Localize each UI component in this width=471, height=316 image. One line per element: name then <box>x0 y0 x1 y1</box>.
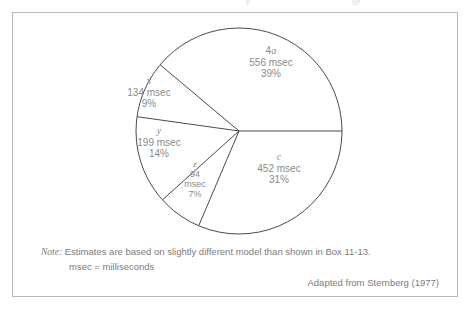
pie-slice-label-4a: 4a 556 msec 39% <box>233 45 309 80</box>
pie-slice-percent-x: 9% <box>111 98 187 110</box>
pie-slice-percent-y: 14% <box>121 148 197 160</box>
pie-slice-label-y: y 199 msec 14% <box>121 125 197 160</box>
pie-slice-label-x: x 134 msec 9% <box>111 75 187 110</box>
figure-note-label: Note: <box>41 247 62 257</box>
pie-slice-label-z: z 94 msec 7% <box>175 161 215 199</box>
pie-slice-percent-z: 7% <box>175 190 215 200</box>
figure-note-line1: Estimates are based on slightly differen… <box>65 246 371 257</box>
pie-slice-key-4a: 4a <box>233 45 309 57</box>
pie-slice-value-c: 452 msec <box>241 163 317 175</box>
top-bleed-fragment-2: gy <box>352 0 360 5</box>
pie-slice-key-y: y <box>121 125 197 137</box>
figure-credit: Adapted from Sternberg (1977) <box>308 277 440 288</box>
pie-slice-percent-c: 31% <box>241 174 317 186</box>
pie-slice-value-4a: 556 msec <box>233 57 309 69</box>
pie-slice-key-c: c <box>241 151 317 163</box>
figure-note-line2: msec = milliseconds <box>41 260 441 274</box>
pie-slice-key-x: x <box>111 75 187 87</box>
pie-slice-key-4a-letter: a <box>271 45 276 56</box>
pie-slice-value-y: 199 msec <box>121 137 197 149</box>
figure-note: Note: Estimates are based on slightly di… <box>41 245 441 274</box>
pie-slice-percent-4a: 39% <box>233 68 309 80</box>
figure-frame: 4a 556 msec 39% x 134 msec 9% y 199 msec… <box>12 12 458 297</box>
figure-page: p gy 4a 556 msec 39% x 134 msec <box>0 0 471 316</box>
top-bleed-fragment-1: p <box>246 0 250 5</box>
pie-slice-value-x: 134 msec <box>111 87 187 99</box>
page-top-bleed-text: p gy <box>0 0 471 5</box>
pie-slice-label-c: c 452 msec 31% <box>241 151 317 186</box>
